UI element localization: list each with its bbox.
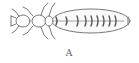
- mesothorax: [45, 16, 53, 26]
- head: [16, 15, 30, 27]
- figure-label: A: [62, 48, 76, 58]
- thorax: [32, 15, 46, 27]
- insect-illustration: [0, 0, 139, 45]
